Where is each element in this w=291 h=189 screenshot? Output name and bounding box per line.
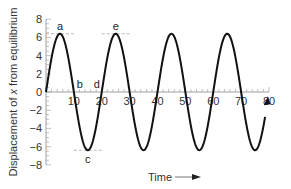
y-tick-label: −2 xyxy=(29,104,42,116)
y-tick-label: 2 xyxy=(36,68,42,80)
point-label-b: b xyxy=(77,78,83,90)
point-label-c: c xyxy=(85,153,91,165)
y-tick-label: −6 xyxy=(29,141,42,153)
y-tick-label: −8 xyxy=(29,159,42,171)
chart: 86420−2−4−6−8 1020304050607080 abcde Dis… xyxy=(0,0,291,189)
y-tick-label: 0 xyxy=(36,86,42,98)
y-tick-label: −4 xyxy=(29,122,42,134)
y-tick-label: 6 xyxy=(36,31,42,43)
point-label-a: a xyxy=(57,20,64,32)
point-annotations: abcde xyxy=(57,20,119,165)
point-label-e: e xyxy=(113,20,119,32)
x-axis-label: Time xyxy=(148,171,172,183)
y-axis-label: Displacement of x from equilibrium xyxy=(7,8,19,177)
y-tick-label: 4 xyxy=(36,50,42,62)
y-tick-label: 8 xyxy=(36,13,42,25)
point-label-d: d xyxy=(94,78,100,90)
time-arrow-icon xyxy=(192,174,201,180)
